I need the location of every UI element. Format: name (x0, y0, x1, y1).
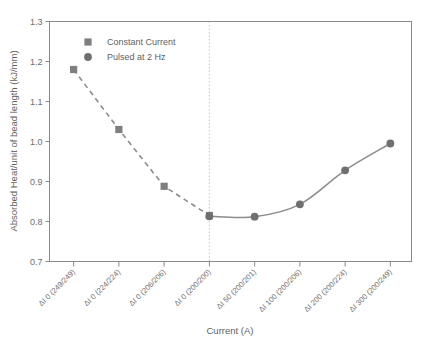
x-tick-label: ΔI 300 (200/249) (347, 267, 394, 314)
data-point-pulsed-2hz (251, 213, 259, 221)
x-tick-label: ΔI 100 (200/206) (257, 267, 304, 314)
series-markers (70, 66, 394, 221)
y-tick-label: 1.1 (30, 97, 43, 107)
y-axis-ticks: 0.70.80.91.01.11.21.3 (30, 17, 50, 267)
data-point-constant-current (161, 183, 168, 190)
chart-legend: Constant CurrentPulsed at 2 Hz (84, 37, 176, 62)
y-axis-title: Absorbed Heat/unit of bead length (kJ/mm… (8, 50, 19, 231)
y-tick-label: 1.0 (30, 137, 43, 147)
data-point-constant-current (115, 126, 122, 133)
data-point-pulsed-2hz (386, 140, 394, 148)
y-tick-label: 0.8 (30, 217, 43, 227)
series-lines (74, 70, 391, 218)
x-tick-label: ΔI 200 (200/224) (302, 267, 349, 314)
data-point-constant-current (70, 66, 77, 73)
chart-container: 0.70.80.91.01.11.21.3 ΔI 0 (249/249)ΔI 0… (0, 0, 427, 349)
data-point-pulsed-2hz (341, 166, 349, 174)
legend-marker-circle (84, 53, 92, 61)
y-tick-label: 0.9 (30, 177, 43, 187)
y-tick-label: 0.7 (30, 257, 43, 267)
data-point-pulsed-2hz (296, 200, 304, 208)
plot-frame (50, 22, 412, 262)
legend-label: Pulsed at 2 Hz (107, 52, 166, 62)
x-tick-label: ΔI 0 (200/200) (172, 267, 213, 308)
x-axis-title: Current (A) (207, 325, 254, 336)
absorbed-heat-vs-current-chart: 0.70.80.91.01.11.21.3 ΔI 0 (249/249)ΔI 0… (0, 0, 427, 349)
x-tick-label: ΔI 0 (224/224) (82, 267, 123, 308)
legend-marker-square (84, 38, 91, 45)
legend-label: Constant Current (107, 37, 176, 47)
constant-current-line (74, 70, 210, 216)
x-axis-tick-labels: ΔI 0 (249/249)ΔI 0 (224/224)ΔI 0 (206/20… (37, 267, 394, 314)
y-tick-label: 1.3 (30, 17, 43, 27)
x-tick-label: ΔI 50 (200/201) (215, 267, 259, 311)
x-tick-label: ΔI 0 (206/206) (127, 267, 168, 308)
y-tick-label: 1.2 (30, 57, 43, 67)
x-axis-ticks (74, 262, 391, 267)
data-point-pulsed-2hz (205, 212, 213, 220)
x-tick-label: ΔI 0 (249/249) (37, 267, 78, 308)
